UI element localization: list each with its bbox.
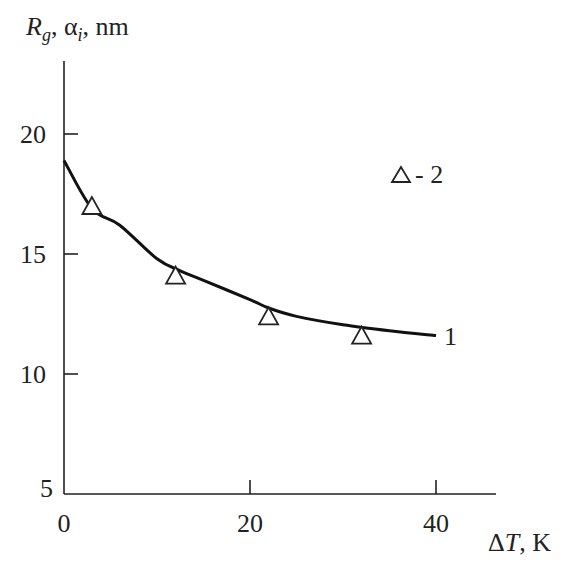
legend-label-2: - 2 <box>415 160 443 189</box>
x-tick-label: 20 <box>237 509 263 538</box>
y-tick-label: 15 <box>20 240 46 269</box>
legend: - 2 <box>392 160 443 189</box>
chart-canvas: 5101520 02040 Rg, αi, nm ΔT, K 1 - 2 <box>0 0 584 563</box>
y-tick-label: 10 <box>20 360 46 389</box>
x-tick-label: 0 <box>58 509 71 538</box>
triangle-marker-icon <box>392 167 410 182</box>
x-tick-label: 40 <box>423 509 449 538</box>
x-ticks: 02040 <box>58 480 450 538</box>
triangle-marker-icon <box>166 267 185 284</box>
y-axis-title: Rg, αi, nm <box>25 12 129 45</box>
axes: 5101520 02040 <box>20 61 496 538</box>
curve-label-1: 1 <box>444 322 457 351</box>
y-tick-label: 5 <box>40 474 53 503</box>
x-axis-title: ΔT, K <box>488 528 551 557</box>
y-tick-label: 20 <box>20 120 46 149</box>
series-1-curve <box>64 160 436 335</box>
y-ticks: 5101520 <box>20 120 78 503</box>
